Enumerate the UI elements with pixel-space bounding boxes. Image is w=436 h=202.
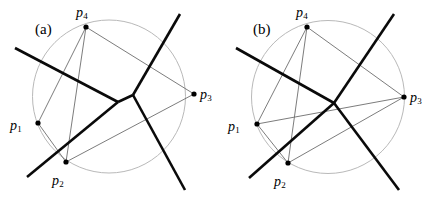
site-label-subscript: 1 [17,124,22,134]
panel-a-graphics [15,14,197,190]
voronoi-edge-a-1 [118,95,133,102]
site-dot-b-p1 [254,121,259,126]
site-label-subscript: 4 [303,11,308,21]
geometry-drawing [0,0,436,202]
site-label-base: p [274,174,281,189]
figure-canvas: (a)p1p2p3p4(b)p1p2p3p4 [0,0,436,202]
site-dot-b-p3 [401,94,406,99]
delaunay-edge-b-p2-p3 [288,97,404,163]
site-label-a-p2: p2 [52,174,64,188]
site-label-base: p [76,5,83,20]
panel-b-graphics [236,14,407,190]
site-dot-b-p2 [285,160,290,165]
voronoi-edge-a-0 [15,48,118,102]
site-label-a-p1: p1 [10,119,22,133]
site-label-subscript: 2 [281,180,286,190]
site-label-subscript: 3 [417,96,422,106]
site-label-subscript: 2 [59,179,64,189]
panel-caption-b: (b) [253,22,271,37]
circumcircle-b [252,21,405,174]
site-label-b-p4: p4 [296,6,308,20]
site-label-a-p3: p3 [200,88,212,102]
site-dot-a-p2 [63,159,68,164]
voronoi-edge-a-3 [133,95,185,190]
site-label-a-p4: p4 [76,6,88,20]
site-dot-b-p4 [304,24,309,29]
panel-caption-a: (a) [35,22,52,37]
site-dot-a-p1 [35,120,40,125]
voronoi-edge-a-4 [27,102,118,177]
voronoi-edge-b-1 [334,14,394,103]
site-dot-a-p4 [83,24,88,29]
delaunay-edge-b-p3-p4 [307,27,404,97]
site-label-subscript: 3 [207,93,212,103]
site-label-base: p [52,173,59,188]
voronoi-edge-b-0 [236,48,334,103]
site-label-base: p [200,87,207,102]
site-label-base: p [10,118,17,133]
site-label-base: p [410,90,417,105]
site-label-subscript: 1 [235,125,240,135]
site-label-b-p2: p2 [274,175,286,189]
site-label-b-p3: p3 [410,91,422,105]
voronoi-edge-b-2 [334,103,399,190]
site-label-base: p [296,5,303,20]
delaunay-edge-b-p1-p4 [257,27,307,124]
site-label-subscript: 4 [83,11,88,21]
site-label-base: p [228,119,235,134]
site-label-b-p1: p1 [228,120,240,134]
site-dot-a-p3 [191,91,196,96]
